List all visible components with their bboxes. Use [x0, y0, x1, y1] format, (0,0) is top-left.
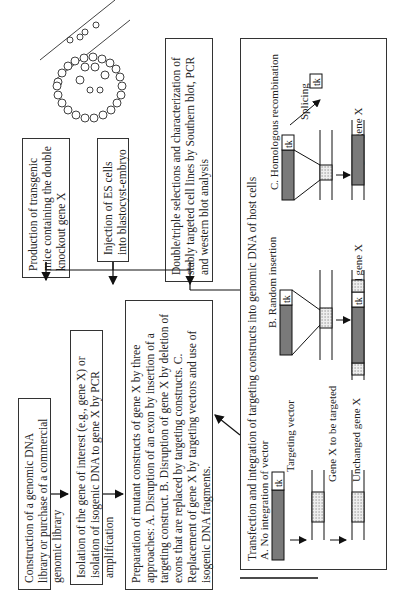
- svg-text:tk: tk: [283, 140, 294, 148]
- svg-text:tk: tk: [281, 295, 292, 303]
- svg-text:tk: tk: [273, 479, 284, 487]
- blastocyst-icon: [40, 0, 130, 122]
- panel-a-graphic: tk: [272, 470, 364, 560]
- svg-text:tk: tk: [353, 297, 364, 305]
- diagram-canvas: Construction of a genomic DNA library or…: [0, 0, 396, 600]
- diagram-graphics: tk tk tk tk: [0, 0, 396, 600]
- panel-b-graphic: tk tk: [280, 270, 364, 380]
- svg-text:tk: tk: [311, 78, 322, 86]
- panel-c-graphic: tk tk: [282, 74, 364, 200]
